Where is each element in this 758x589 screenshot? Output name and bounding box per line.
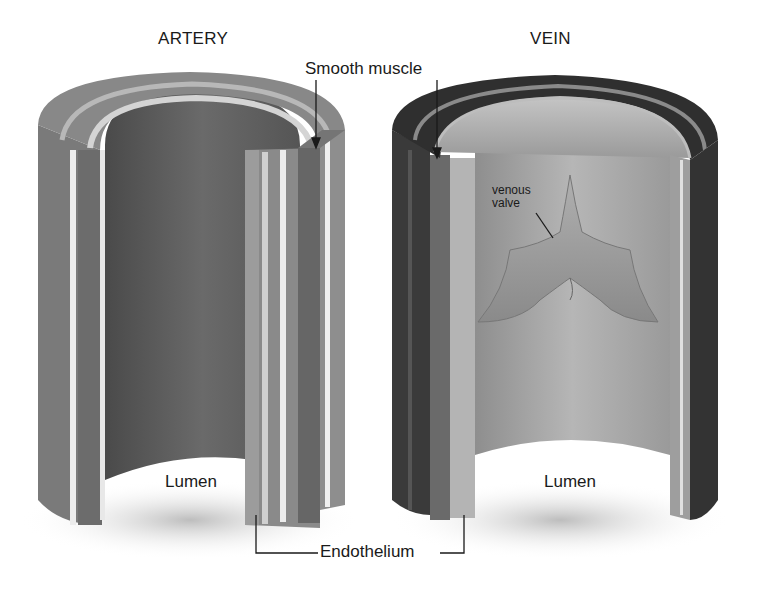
endothelium-label: Endothelium xyxy=(320,543,415,560)
venous-valve-label: venous valve xyxy=(492,184,552,210)
artery-vein-diagram xyxy=(0,0,758,589)
vein-lumen-label: Lumen xyxy=(544,473,596,490)
artery-lumen-label: Lumen xyxy=(165,473,217,490)
venous-valve-line1: venous xyxy=(492,183,531,197)
vein-title: VEIN xyxy=(530,30,571,47)
venous-valve-line2: valve xyxy=(492,196,520,210)
artery-title: ARTERY xyxy=(158,30,228,47)
smooth-muscle-label: Smooth muscle xyxy=(305,60,422,77)
